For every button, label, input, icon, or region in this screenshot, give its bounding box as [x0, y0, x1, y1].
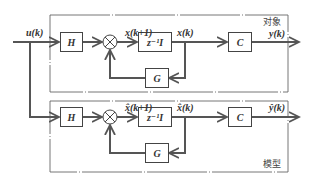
- plant-c-block: C: [228, 32, 252, 52]
- model-state-label: x̂(k): [177, 103, 194, 113]
- model-next-state-label: x̂(k+1): [125, 103, 152, 113]
- plant-frame: [50, 15, 288, 92]
- model-h-block: H: [60, 107, 83, 127]
- input-label: u(k): [26, 28, 43, 38]
- plant-h-block: H: [60, 32, 83, 52]
- model-summing-junction: [103, 110, 117, 124]
- plant-summing-junction: [103, 35, 117, 49]
- model-g-block: G: [145, 143, 169, 163]
- plant-output-label: y(k): [269, 29, 285, 39]
- model-c-block: C: [228, 107, 252, 127]
- plant-next-state-label: x(k+1): [125, 28, 152, 38]
- plant-frame-label: 对象: [263, 18, 281, 27]
- model-output-label: ŷ(k): [269, 103, 285, 113]
- input-branch-line: [30, 42, 59, 117]
- plant-g-block: G: [145, 68, 169, 88]
- model-frame-label: 模型: [263, 160, 281, 169]
- plant-state-label: x(k): [177, 28, 194, 38]
